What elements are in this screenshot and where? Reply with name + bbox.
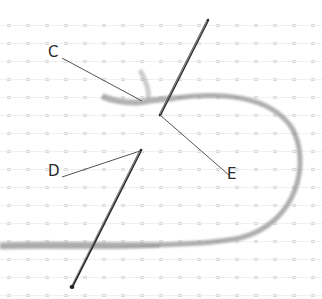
label-d: D <box>48 164 60 179</box>
stitch-diagram: C D E <box>0 0 322 299</box>
needle-eye <box>70 285 75 289</box>
label-c: C <box>48 45 58 60</box>
label-e: E <box>227 167 236 182</box>
